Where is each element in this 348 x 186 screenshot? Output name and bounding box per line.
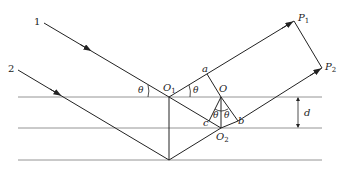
d-label: d [304, 108, 310, 118]
theta-left-arc [148, 85, 149, 97]
O1-label: O1 [163, 83, 176, 95]
ray-2-internal [169, 128, 221, 160]
O2-label: O2 [216, 132, 229, 144]
P1-label: P1 [298, 13, 309, 25]
P1-to-P2 [294, 21, 322, 68]
O2-to-b [221, 121, 238, 128]
O-label: O [219, 84, 227, 94]
theta-right-arc [189, 85, 190, 97]
a-label: a [202, 64, 208, 74]
theta-inner-right-label: θ [224, 111, 229, 120]
theta-right-label: θ [193, 86, 198, 95]
ray-2-emerging-arrow [310, 71, 318, 76]
ray-1-label: 1 [34, 17, 40, 27]
theta-left-label: θ [138, 86, 143, 95]
ray-1-reflected-arrow [282, 23, 290, 28]
ray-1-arrow [80, 44, 88, 49]
ray-1-incident [44, 23, 169, 97]
ray-2-arrow [50, 89, 58, 94]
d-arrow-bottom [296, 124, 300, 128]
d-arrow-top [296, 97, 300, 101]
theta-inner-left-label: θ [213, 111, 218, 120]
b-label: b [238, 116, 244, 126]
P2-label: P2 [325, 62, 336, 74]
ray-2-label: 2 [8, 64, 14, 74]
ray-1-reflected [169, 21, 294, 97]
c-label: c [203, 118, 209, 128]
thin-film-interference-diagram: 1 2 O1 O O2 a c b P1 P2 d θ θ θ θ [0, 0, 348, 186]
